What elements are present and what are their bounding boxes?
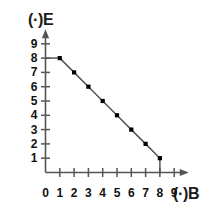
x-axis-tick-label: 1	[53, 187, 67, 199]
x-axis-tick-label: 5	[110, 187, 124, 199]
x-axis-tick-label: 6	[124, 187, 138, 199]
y-axis-arrow-icon	[42, 29, 49, 38]
x-axis-tick-label: 0	[39, 187, 53, 199]
y-axis-tick-label: 6	[24, 81, 38, 93]
x-axis-tick-label: 2	[67, 187, 81, 199]
data-point-marker	[101, 99, 105, 103]
y-axis-tick-label: 1	[24, 152, 38, 164]
x-axis-arrow-icon	[180, 169, 189, 176]
y-axis-tick-label: 7	[24, 66, 38, 78]
y-axis-tick-label: 9	[24, 38, 38, 50]
y-axis-tick-label: 5	[24, 95, 38, 107]
data-point-marker	[129, 128, 133, 132]
y-axis-tick-label: 4	[24, 109, 38, 121]
x-axis-tick-label: 4	[96, 187, 110, 199]
y-axis-tick-label: 3	[24, 124, 38, 136]
x-axis-tick-label: 8	[153, 187, 167, 199]
x-axis-tick-label: 3	[81, 187, 95, 199]
data-point-marker	[158, 156, 162, 160]
x-axis-tick-label: 9	[167, 187, 181, 199]
y-axis-tick-label: 2	[24, 138, 38, 150]
data-point-marker	[58, 56, 62, 60]
y-axis-tick-label: 8	[24, 52, 38, 64]
x-axis-tick-label: 7	[139, 187, 153, 199]
data-point-marker	[144, 142, 148, 146]
data-point-marker	[72, 70, 76, 74]
chart-figure: (·)E (·)B 1234567890123456789	[0, 0, 224, 211]
y-axis-title: (·)E	[28, 12, 53, 28]
data-point-marker	[86, 85, 90, 89]
data-point-marker	[115, 113, 119, 117]
